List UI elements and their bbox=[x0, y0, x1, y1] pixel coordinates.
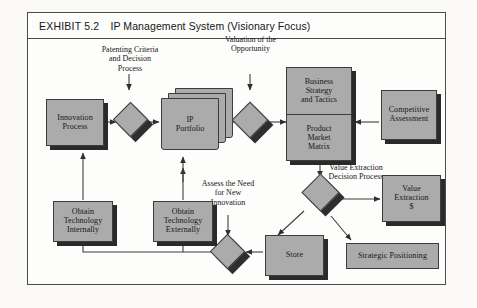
node-competitive-assessment[interactable]: Competitive Assessment bbox=[381, 90, 437, 140]
exhibit-number: EXHIBIT 5.2 bbox=[39, 20, 99, 32]
node-store[interactable]: Store bbox=[265, 235, 324, 276]
node-ip-portfolio[interactable]: IP Portfolio bbox=[161, 88, 234, 151]
value-extraction-decision-diamond[interactable] bbox=[307, 179, 334, 206]
patenting-criteria-decision-diamond[interactable] bbox=[118, 107, 143, 132]
valuation-opportunity-diamond[interactable] bbox=[237, 107, 263, 133]
node-obtain-technology-internally[interactable]: Obtain Technology Internally bbox=[53, 201, 113, 242]
node-value-extraction[interactable]: Value Extraction $ bbox=[382, 175, 441, 222]
portfolio-sheet-front: IP Portfolio bbox=[161, 98, 219, 150]
node-innovation-process[interactable]: Innovation Process bbox=[46, 99, 104, 146]
node-strategic-positioning[interactable]: Strategic Positioning bbox=[346, 243, 439, 269]
diagram-canvas: Patenting Criteria and Decision Process … bbox=[28, 39, 445, 284]
node-business-strategy[interactable]: Business Strategy and Tactics bbox=[287, 68, 351, 115]
node-product-market-matrix[interactable]: Product Market Matrix bbox=[287, 115, 351, 161]
caption-valuation-opportunity: Valuation of the Opportunity bbox=[204, 35, 297, 54]
wire-value-decision-to-positioning bbox=[331, 216, 351, 240]
wire-value-decision-to-store bbox=[278, 211, 304, 235]
wire-feedback-bus bbox=[83, 243, 224, 252]
node-obtain-technology-externally[interactable]: Obtain Technology Externally bbox=[153, 201, 213, 242]
assess-need-decision-diamond[interactable] bbox=[215, 239, 240, 264]
caption-patenting-criteria: Patenting Criteria and Decision Process bbox=[80, 45, 180, 73]
exhibit-frame: EXHIBIT 5.2 IP Management System (Vision… bbox=[27, 12, 446, 285]
exhibit-title: IP Management System (Visionary Focus) bbox=[110, 20, 310, 32]
node-strategy-and-matrix[interactable]: Business Strategy and Tactics Product Ma… bbox=[286, 67, 352, 161]
